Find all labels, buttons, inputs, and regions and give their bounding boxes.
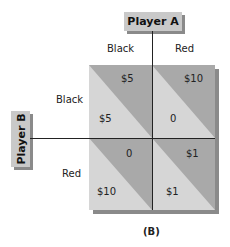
player-a-label: Player A [124,12,182,31]
player-b-text: Player B [14,113,27,164]
column-label-red: Red [175,43,194,54]
cell-red-black: 0 $10 [89,138,152,211]
horizontal-divider [30,138,215,139]
payoff-a: $10 [184,73,203,84]
player-a-text: Player A [127,15,178,28]
cell-diagonal-shape [152,138,215,210]
cell-black-red: $10 0 [152,65,215,138]
payoff-b: $1 [166,186,179,197]
cell-diagonal-shape [89,138,152,210]
vertical-divider [152,31,153,210]
row-label-black: Black [56,94,83,105]
player-b-label: Player B [11,111,30,167]
payoff-b: 0 [170,113,176,124]
payoff-a: 0 [126,148,132,159]
cell-black-black: $5 $5 [89,65,152,138]
payoff-a: $1 [186,148,199,159]
cell-red-red: $1 $1 [152,138,215,211]
row-label-red: Red [62,168,81,179]
payoff-a: $5 [121,73,134,84]
payoff-b: $10 [97,186,116,197]
figure-caption: (B) [143,226,160,237]
payoff-b: $5 [99,113,112,124]
grid-shadow-right [215,69,219,213]
column-label-black: Black [107,43,134,54]
